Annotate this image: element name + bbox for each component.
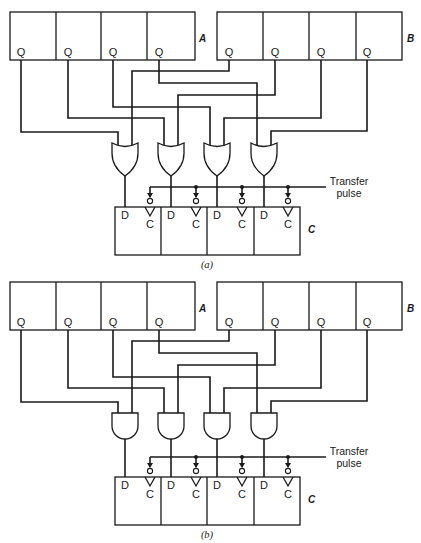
transfer-label: Transfer <box>330 445 369 457</box>
register-a-outline <box>10 282 195 330</box>
q-output-label: Q <box>225 46 234 58</box>
q-output-label: Q <box>64 46 73 58</box>
q-output-label: Q <box>317 46 326 58</box>
inversion-bubble-icon <box>193 198 198 203</box>
arrow-down-icon <box>147 193 153 198</box>
wire-a2 <box>113 330 210 415</box>
register-c: DCDCDCDCC <box>115 477 316 525</box>
d-input-label: D <box>167 209 175 221</box>
wire-b3 <box>271 330 367 415</box>
register-a: QQQQA <box>10 282 206 330</box>
q-output-label: Q <box>64 316 73 328</box>
panel-caption: (a) <box>201 259 214 271</box>
arrow-down-icon <box>285 463 291 468</box>
interconnect-wires <box>21 60 367 145</box>
q-output-label: Q <box>17 316 26 328</box>
q-output-label: Q <box>155 316 164 328</box>
register-b: QQQQB <box>217 12 414 60</box>
inversion-bubble-icon <box>285 198 290 203</box>
clock-input-label: C <box>146 218 154 230</box>
clock-input-label: C <box>238 488 246 500</box>
q-output-label: Q <box>271 316 280 328</box>
clock-input-label: C <box>146 488 154 500</box>
clock-triangle-icon <box>237 207 247 216</box>
arrow-down-icon <box>239 463 245 468</box>
clock-triangle-icon <box>191 207 201 216</box>
clock-triangle-icon <box>191 477 201 486</box>
inversion-bubble-icon <box>239 468 244 473</box>
register-c: DCDCDCDCC <box>115 207 316 255</box>
wire-a3 <box>159 60 257 145</box>
q-output-label: Q <box>317 316 326 328</box>
wire-a3 <box>159 330 257 415</box>
arrow-down-icon <box>147 463 153 468</box>
or-gates <box>112 143 277 207</box>
register-b-label: B <box>407 33 414 44</box>
d-input-label: D <box>121 479 129 491</box>
arrow-down-icon <box>193 193 199 198</box>
q-output-label: Q <box>271 46 280 58</box>
diagram-canvas: QQQQAQQQQBTransferpulseDCDCDCDCC(a)QQQQA… <box>0 0 421 543</box>
panel-b: QQQQAQQQQBTransferpulseDCDCDCDCC(b) <box>10 282 414 541</box>
register-a: QQQQA <box>10 12 206 60</box>
inversion-bubble-icon <box>239 198 244 203</box>
d-input-label: D <box>260 479 268 491</box>
and-gates <box>112 413 277 477</box>
arrow-down-icon <box>239 193 245 198</box>
and-gate-icon <box>158 413 184 439</box>
and-gate-icon <box>204 413 230 439</box>
d-input-label: D <box>167 479 175 491</box>
register-b-label: B <box>407 303 414 314</box>
wire-b1 <box>178 330 275 415</box>
clock-input-label: C <box>192 488 200 500</box>
inversion-bubble-icon <box>285 468 290 473</box>
wire-b2 <box>224 60 321 145</box>
clock-triangle-icon <box>145 477 155 486</box>
wire-a0 <box>21 330 118 415</box>
d-input-label: D <box>213 209 221 221</box>
q-output-label: Q <box>155 46 164 58</box>
wire-b2 <box>224 330 321 415</box>
register-a-label: A <box>198 33 206 44</box>
clock-triangle-icon <box>283 207 293 216</box>
wire-b0 <box>132 60 229 145</box>
q-output-label: Q <box>109 316 118 328</box>
clock-input-label: C <box>284 218 292 230</box>
wire-a0 <box>21 60 118 145</box>
pulse-label: pulse <box>336 187 361 199</box>
clock-triangle-icon <box>145 207 155 216</box>
register-a-label: A <box>198 303 206 314</box>
clock-input-label: C <box>192 218 200 230</box>
inversion-bubble-icon <box>193 468 198 473</box>
and-gate-icon <box>112 413 138 439</box>
transfer-pulse-line: Transferpulse <box>147 445 369 474</box>
inversion-bubble-icon <box>147 198 152 203</box>
q-output-label: Q <box>225 316 234 328</box>
clock-input-label: C <box>284 488 292 500</box>
register-b: QQQQB <box>217 282 414 330</box>
q-output-label: Q <box>363 46 372 58</box>
or-gate-icon <box>251 143 277 176</box>
d-input-label: D <box>260 209 268 221</box>
or-gate-icon <box>204 143 230 176</box>
register-c-label: C <box>308 494 316 505</box>
clock-triangle-icon <box>283 477 293 486</box>
panel-a: QQQQAQQQQBTransferpulseDCDCDCDCC(a) <box>10 12 414 271</box>
wire-b1 <box>178 60 275 145</box>
arrow-down-icon <box>193 463 199 468</box>
or-gate-icon <box>112 143 138 176</box>
transfer-label: Transfer <box>330 175 369 187</box>
d-input-label: D <box>121 209 129 221</box>
arrow-down-icon <box>285 193 291 198</box>
clock-triangle-icon <box>237 477 247 486</box>
d-input-label: D <box>213 479 221 491</box>
inversion-bubble-icon <box>147 468 152 473</box>
register-a-outline <box>10 12 195 60</box>
or-gate-icon <box>158 143 184 176</box>
register-c-label: C <box>308 224 316 235</box>
clock-input-label: C <box>238 218 246 230</box>
q-output-label: Q <box>363 316 372 328</box>
pulse-label: pulse <box>336 457 361 469</box>
q-output-label: Q <box>17 46 26 58</box>
panel-caption: (b) <box>201 529 214 541</box>
